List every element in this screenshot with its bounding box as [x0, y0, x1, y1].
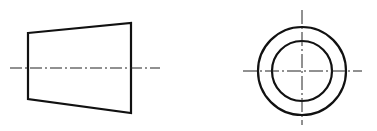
side-view [243, 10, 362, 125]
front-view [10, 23, 160, 113]
technical-drawing [0, 0, 377, 131]
